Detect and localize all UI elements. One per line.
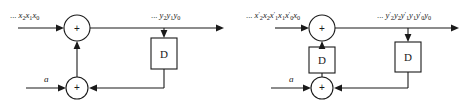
right-delay-label-feedback: D (318, 54, 326, 66)
left-output-label: ... y2y1y0 (151, 10, 180, 21)
right-top-adder-plus: + (319, 23, 325, 34)
figure-root: ... x2x1x0 ... y2y1y0 + D + a (0, 0, 469, 108)
left-top-adder-plus: + (74, 23, 80, 34)
right-output-d-input-arrowhead (405, 34, 412, 42)
right-coefficient-label: a (289, 74, 294, 84)
left-delay-label: D (160, 48, 168, 60)
left-coefficient-arrowhead (58, 85, 66, 92)
right-input-label: ... x′2x2x′1x1x′0x0 (246, 10, 300, 21)
left-input-arrowhead (56, 25, 64, 32)
right-output-label: ... y′2y2y′1y1y′0y0 (377, 10, 431, 21)
right-output-arrowhead (451, 25, 459, 32)
left-carry-arrowhead (74, 41, 81, 49)
left-input-label: ... x2x1x0 (10, 10, 39, 21)
right-bottom-adder-plus: + (319, 82, 325, 93)
left-coefficient-label: a (44, 74, 49, 84)
right-delay-label-output: D (404, 51, 412, 63)
right-carry-arrowhead (319, 41, 326, 49)
left-input-label-text: ... (10, 10, 19, 20)
right-bottom-adder-right-arrowhead (334, 85, 342, 92)
diagram-left-serial-adder-single-delay: ... x2x1x0 ... y2y1y0 + D + a (0, 0, 235, 108)
right-coefficient-arrowhead (303, 85, 311, 92)
left-output-arrowhead (216, 25, 224, 32)
diagram-right-serial-adder-double-delay: ... x′2x2x′1x1x′0x0 ... y′2y2y′1y1y′0y0 … (235, 0, 469, 108)
left-d-input-arrowhead (161, 30, 168, 38)
left-bottom-adder-right-arrowhead (89, 85, 97, 92)
left-bottom-adder-plus: + (74, 82, 80, 93)
right-input-arrowhead (301, 25, 309, 32)
